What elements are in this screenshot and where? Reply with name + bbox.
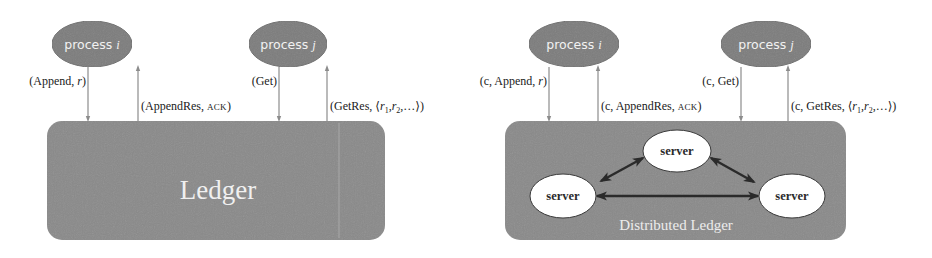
get-response-message: (GetRes, ⟨r1,r2,…⟩) [330,99,424,115]
c-append-message: (c, Append, r) [480,74,547,88]
process-j-label-distributed: process j [738,37,794,52]
server-node-left: server [530,174,596,218]
process-j-label: process j [260,37,316,52]
diagram-canvas: Ledger process i process j (Append, r) (… [0,0,932,258]
server-top-label: server [660,144,694,158]
process-j-node: process j [249,21,327,67]
server-left-label: server [546,189,580,203]
process-i-node: process i [52,21,132,67]
server-right-label: server [775,189,809,203]
server-node-right: server [759,174,825,218]
left-diagram: Ledger process i process j (Append, r) (… [29,21,424,240]
append-response-message: (AppendRes, ACK) [141,99,231,113]
process-i-label: process i [64,37,120,52]
process-i-node-distributed: process i [529,21,619,67]
c-get-message: (c, Get) [702,74,739,88]
server-node-top: server [643,130,711,172]
c-get-response-message: (c, GetRes, ⟨r1,r2,…⟩) [791,99,896,115]
get-message: (Get) [252,74,277,88]
append-message: (Append, r) [29,74,86,88]
process-i-label-distributed: process i [546,37,602,52]
c-append-response-message: (c, AppendRes, ACK) [601,99,702,113]
distributed-ledger-label: Distributed Ledger [619,217,733,233]
process-j-node-distributed: process j [721,21,811,67]
right-diagram: Distributed Ledger server server server … [480,21,897,240]
ledger-figure: Ledger process i process j (Append, r) (… [0,0,932,258]
ledger-label: Ledger [180,175,256,205]
ledger-box: Ledger [47,121,385,240]
